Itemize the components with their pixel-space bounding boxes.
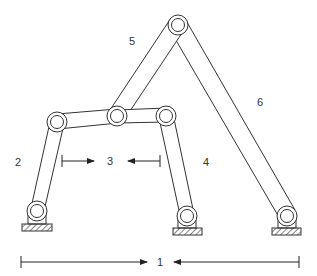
joint-right-upper xyxy=(156,106,176,126)
link-4 xyxy=(159,114,194,215)
joint-ground-right xyxy=(277,206,297,226)
linkage-diagram xyxy=(0,0,317,276)
joint-ground-mid xyxy=(177,206,197,226)
joint-ground-left xyxy=(27,201,47,221)
label-link-3: 3 xyxy=(107,156,113,167)
joint-left-upper xyxy=(47,112,67,132)
label-link-1: 1 xyxy=(157,257,163,268)
label-link-2: 2 xyxy=(15,157,21,168)
label-link-5: 5 xyxy=(129,36,135,47)
link-2 xyxy=(31,122,64,211)
label-link-6: 6 xyxy=(257,97,263,108)
label-link-4: 4 xyxy=(203,157,209,168)
joint-middle xyxy=(107,106,127,126)
joint-apex xyxy=(168,15,188,35)
